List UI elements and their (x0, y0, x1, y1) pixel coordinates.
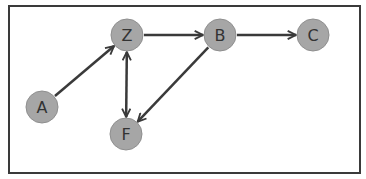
edge-z-f (126, 52, 127, 117)
node-b: B (204, 19, 236, 51)
graph-canvas: ZBCAF (0, 0, 366, 179)
node-a: A (26, 91, 58, 123)
node-label: C (307, 26, 318, 45)
edge-b-f (138, 47, 209, 121)
node-c: C (297, 19, 329, 51)
node-label: F (121, 125, 130, 144)
edge-a-z (55, 46, 114, 96)
edges-group (55, 35, 296, 122)
node-label: A (37, 98, 48, 117)
nodes-group: ZBCAF (26, 19, 329, 150)
node-f: F (110, 118, 142, 150)
node-label: Z (122, 26, 133, 45)
node-label: B (215, 26, 226, 45)
node-z: Z (111, 19, 143, 51)
